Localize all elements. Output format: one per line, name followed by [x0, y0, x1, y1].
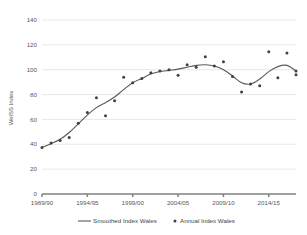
- data-point: [168, 68, 171, 71]
- x-tick-label: 1994/95: [76, 199, 99, 206]
- data-point: [240, 91, 243, 94]
- y-tick-label: 60: [30, 116, 37, 123]
- data-point: [295, 69, 298, 72]
- data-point: [104, 114, 107, 117]
- data-point: [258, 84, 261, 87]
- data-point: [68, 136, 71, 139]
- data-point: [113, 99, 116, 102]
- y-tick-label: 80: [30, 91, 37, 98]
- data-point: [213, 64, 216, 67]
- data-point: [41, 146, 44, 149]
- data-point: [149, 71, 152, 74]
- y-tick-label: 0: [34, 190, 38, 197]
- data-point: [95, 96, 98, 99]
- data-point: [77, 122, 80, 125]
- y-axis-title: WelSS Index: [8, 91, 14, 126]
- data-point: [186, 63, 189, 66]
- x-tick-label: 2004/05: [167, 199, 190, 206]
- data-point: [50, 142, 53, 145]
- data-point: [86, 111, 89, 114]
- data-point: [285, 51, 288, 54]
- y-tick-label: 100: [27, 66, 38, 73]
- x-tick-label: 1999/00: [122, 199, 145, 206]
- chart-container: 020406080100120140 1989/901994/951999/00…: [0, 0, 307, 235]
- data-point: [177, 74, 180, 77]
- smoothed-index-line: [42, 65, 296, 148]
- legend-label: Annual Index Wales: [180, 217, 235, 224]
- data-point: [122, 76, 125, 79]
- legend-label: Smoothed Index Wales: [93, 217, 157, 224]
- data-point: [249, 83, 252, 86]
- legend-dot-swatch: [174, 220, 177, 223]
- data-point: [158, 69, 161, 72]
- data-point: [131, 81, 134, 84]
- data-point: [140, 77, 143, 80]
- y-tick-label: 40: [30, 140, 37, 147]
- chart-svg: 020406080100120140 1989/901994/951999/00…: [0, 0, 307, 235]
- data-point: [267, 50, 270, 53]
- annual-index-markers: [41, 50, 298, 149]
- data-point: [276, 76, 279, 79]
- y-axis-tick-labels: 020406080100120140: [27, 16, 38, 197]
- data-point: [295, 73, 298, 76]
- x-tick-label: 2009/10: [212, 199, 235, 206]
- x-tick-label: 2014/15: [258, 199, 281, 206]
- y-tick-label: 120: [27, 41, 38, 48]
- chart-legend: Smoothed Index WalesAnnual Index Wales: [78, 217, 235, 224]
- x-tick-label: 1989/90: [31, 199, 54, 206]
- x-axis-tick-labels: 1989/901994/951999/002004/052009/102014/…: [31, 194, 281, 206]
- data-point: [59, 139, 62, 142]
- y-tick-label: 140: [27, 16, 38, 23]
- y-tick-label: 20: [30, 165, 37, 172]
- gridlines: [42, 20, 296, 169]
- data-point: [222, 60, 225, 63]
- data-point: [231, 75, 234, 78]
- data-point: [195, 66, 198, 69]
- data-point: [204, 55, 207, 58]
